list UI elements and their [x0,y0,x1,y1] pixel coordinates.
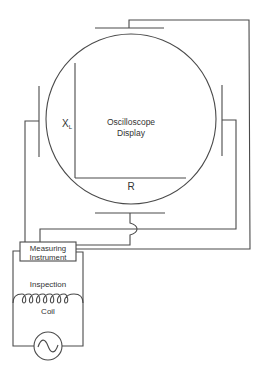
y-axis-label: XL [62,118,73,130]
coil-label-2: Coil [41,307,55,316]
coil-circuit-left-wire [13,251,34,346]
left-plate-wire [25,121,39,242]
oscilloscope-label-2: Display [117,128,146,138]
inspection-coil-icon [13,294,83,303]
top-plate-wire [76,20,250,249]
oscilloscope-label: Oscilloscope [107,117,155,127]
coil-label: Inspection [30,280,66,289]
circuit-diagram: XL R Oscilloscope Display Measuring Inst… [0,0,259,376]
instrument-label-2: Instrument [30,253,68,262]
right-plate-wire [40,120,236,242]
sine-wave-icon [38,340,58,352]
x-axis-label: R [127,181,134,192]
